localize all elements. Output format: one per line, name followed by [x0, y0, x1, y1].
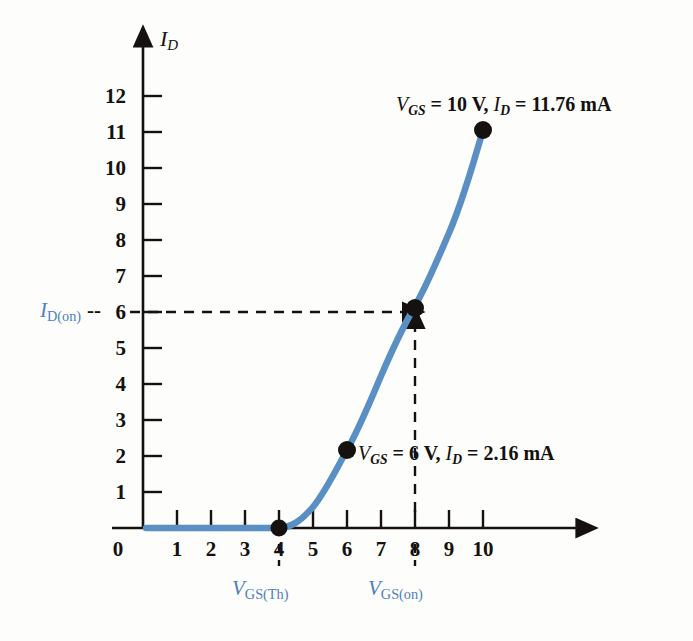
y-axis-label: ID [160, 28, 178, 53]
vgs-th-label: VGS(Th) [232, 578, 288, 601]
y-tick-label-8: 8 [96, 230, 126, 251]
x-tick-label-10: 10 [468, 539, 498, 560]
y-tick-label-10: 10 [96, 158, 126, 179]
x-tick-label-9: 9 [434, 539, 464, 560]
data-point-8v [406, 299, 424, 317]
y-tick-label-4: 4 [96, 374, 126, 395]
y-tick-label-9: 9 [96, 194, 126, 215]
y-tick-label-12: 12 [96, 86, 126, 107]
x-tick-label-5: 5 [298, 539, 328, 560]
annotation-6v: VGS = 6 V, ID = 2.16 mA [358, 443, 555, 466]
x-tick-label-4: 4 [264, 539, 294, 560]
y-tick-label-11: 11 [96, 122, 126, 143]
y-tick-label-2: 2 [96, 446, 126, 467]
y-tick-label-5: 5 [96, 338, 126, 359]
x-tick-label-8: 8 [400, 539, 430, 560]
x-tick-label-1: 1 [162, 539, 192, 560]
x-tick-label-0: 0 [103, 539, 133, 560]
id-on-dashes: -- [87, 298, 101, 322]
x-tick-label-6: 6 [332, 539, 362, 560]
id-on-label: ID(on)-- [40, 300, 101, 323]
x-tick-label-2: 2 [196, 539, 226, 560]
annotation-10v: VGS = 10 V, ID = 11.76 mA [396, 94, 611, 117]
vgs-on-label: VGS(on) [368, 578, 423, 601]
x-tick-label-3: 3 [230, 539, 260, 560]
y-tick-label-3: 3 [96, 410, 126, 431]
figure-container: ID 12 11 10 9 8 7 6 5 4 3 2 1 0 1 2 3 4 … [0, 0, 693, 641]
y-axis-ticks [143, 96, 162, 492]
data-point-6v [338, 441, 356, 459]
x-tick-label-7: 7 [366, 539, 396, 560]
data-point-vgs-th [271, 520, 288, 537]
y-tick-label-1: 1 [96, 482, 126, 503]
data-point-10v [474, 121, 492, 139]
y-tick-label-7: 7 [96, 266, 126, 287]
transfer-curve [146, 130, 483, 528]
